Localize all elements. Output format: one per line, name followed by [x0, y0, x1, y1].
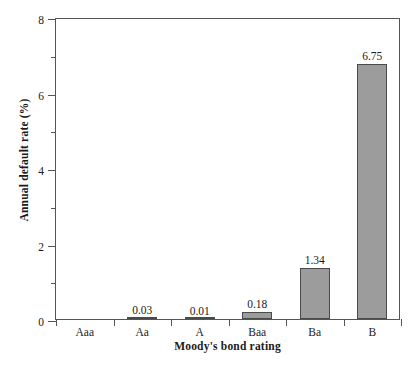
bar[interactable]: [127, 317, 157, 319]
y-axis-tick-label: 4: [38, 162, 44, 180]
plot-area: 02468Aaa0.03Aa0.01A0.18Baa1.34Ba6.75B: [55, 18, 400, 320]
y-axis-tick-label: 2: [38, 238, 44, 256]
bar[interactable]: [357, 64, 387, 319]
x-axis-tick: [171, 319, 172, 326]
y-axis-tick-major: 0: [48, 321, 56, 322]
x-axis-tick-label: Aa: [136, 325, 149, 339]
bar-chart-figure: Annual default rate (%) 02468Aaa0.03Aa0.…: [0, 0, 416, 366]
bar[interactable]: [242, 312, 272, 319]
x-axis-tick-label: B: [368, 325, 376, 339]
y-axis-title: Annual default rate (%): [14, 0, 34, 320]
y-axis-tick-major: 2: [48, 246, 56, 247]
y-axis-tick-label: 0: [38, 313, 44, 331]
x-axis-tick-label: Baa: [248, 325, 266, 339]
x-axis-tick-label: Ba: [308, 325, 321, 339]
y-axis-tick-major: 8: [48, 19, 56, 20]
x-axis-tick-label: A: [196, 325, 204, 339]
bar-value-label: 0.01: [190, 304, 210, 318]
x-axis-tick: [56, 319, 57, 326]
bar-value-label: 0.18: [247, 297, 267, 311]
y-axis-tick-minor: [51, 283, 56, 284]
y-axis-tick-minor: [51, 57, 56, 58]
x-axis-tick: [229, 319, 230, 326]
x-axis-title: Moody's bond rating: [55, 340, 400, 352]
bar-value-label: 0.03: [132, 303, 152, 317]
bar[interactable]: [300, 268, 330, 319]
y-axis-tick-label: 6: [38, 87, 44, 105]
bar-value-label: 1.34: [305, 253, 325, 267]
y-axis-tick-minor: [51, 132, 56, 133]
y-axis-tick-major: 6: [48, 95, 56, 96]
x-axis-tick: [114, 319, 115, 326]
x-axis-tick: [344, 319, 345, 326]
x-axis-tick: [401, 319, 402, 326]
y-axis-tick-label: 8: [38, 11, 44, 29]
y-axis-tick-minor: [51, 208, 56, 209]
x-axis-tick-label: Aaa: [75, 325, 94, 339]
x-axis-tick: [286, 319, 287, 326]
bar-value-label: 6.75: [362, 49, 382, 63]
y-axis-tick-major: 4: [48, 170, 56, 171]
